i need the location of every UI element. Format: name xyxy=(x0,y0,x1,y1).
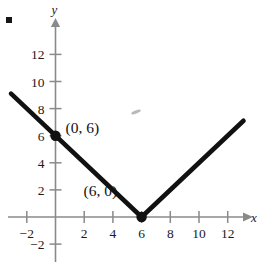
y-axis-arrowhead xyxy=(51,18,60,27)
y-axis-tick-label: 12 xyxy=(31,47,45,62)
point-marker xyxy=(50,131,60,141)
y-axis-tick-label: 6 xyxy=(38,129,45,144)
corner-bullet-icon xyxy=(6,17,12,23)
x-axis-tick-label: 4 xyxy=(110,226,117,241)
y-axis-tick-label: 4 xyxy=(38,156,45,171)
series-polyline xyxy=(11,94,243,217)
y-axis-tick-label: 8 xyxy=(38,102,45,117)
coordinate-plane-svg: −22468101212108642−2 (0, 6)(6, 0) xy xyxy=(0,0,261,267)
data-series-group xyxy=(11,94,243,217)
y-axis-tick-label: 2 xyxy=(38,183,45,198)
point-coordinate-label: (6, 0) xyxy=(84,182,118,200)
x-axis-tick-label: 12 xyxy=(221,226,235,241)
axis-tick-labels-group: −22468101212108642−2 xyxy=(20,47,235,252)
axes-group xyxy=(8,18,253,262)
y-axis-tick-label: −2 xyxy=(30,237,44,252)
x-axis-tick-label: 8 xyxy=(167,226,174,241)
y-axis-name: y xyxy=(50,2,58,17)
point-coordinate-label: (0, 6) xyxy=(66,119,100,137)
axis-names-group: xy xyxy=(50,2,258,225)
point-marker xyxy=(136,212,146,222)
graph-figure: −22468101212108642−2 (0, 6)(6, 0) xy xyxy=(0,0,261,267)
scan-smudge-artifact xyxy=(131,109,141,115)
x-axis-tick-label: 6 xyxy=(138,226,145,241)
x-axis-tick-label: 10 xyxy=(192,226,206,241)
y-axis-tick-label: 10 xyxy=(31,75,45,90)
x-axis-name: x xyxy=(250,210,257,225)
axis-ticks-group xyxy=(27,54,228,244)
x-axis-tick-label: 2 xyxy=(81,226,88,241)
